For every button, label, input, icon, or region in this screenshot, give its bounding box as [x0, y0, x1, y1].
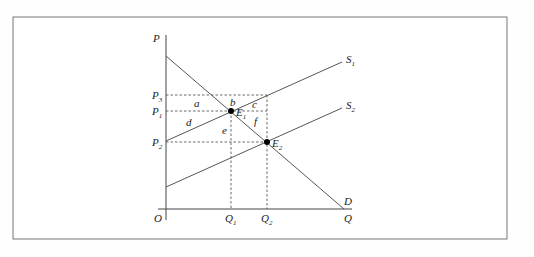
y-axis-label: P [152, 32, 160, 44]
demand-label: D [343, 195, 352, 207]
area-c-label: c [252, 98, 257, 110]
area-a-label: a [194, 97, 200, 109]
area-d-label: d [186, 116, 192, 128]
equilibrium-point-e1 [228, 108, 234, 114]
area-e-label: e [222, 124, 227, 136]
area-b-label: b [230, 96, 236, 108]
x-axis-label: Q [344, 212, 352, 224]
supply-demand-diagram: P O Q D S1 S2 P3 P1 P2 Q1 Q2 E1 E2 a b c… [0, 0, 534, 257]
equilibrium-point-e2 [264, 139, 270, 145]
figure-frame [13, 17, 507, 239]
origin-label: O [154, 212, 162, 224]
